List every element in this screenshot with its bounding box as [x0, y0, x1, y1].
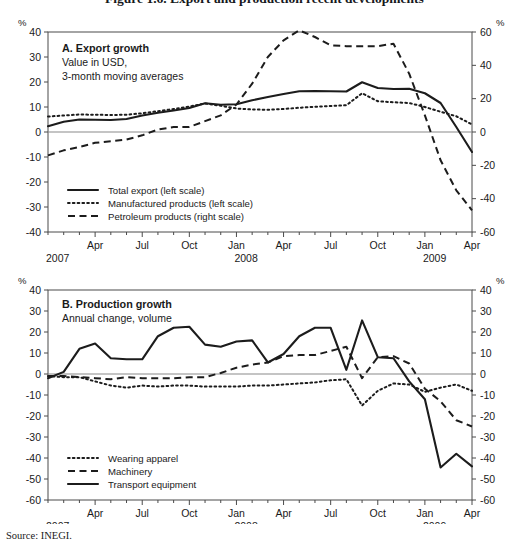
x-tick-label: Jul [324, 507, 337, 519]
y-tick-label-right: -40 [480, 192, 495, 204]
y-tick-label-left: -60 [26, 494, 41, 506]
x-tick-label: Jan [416, 239, 433, 251]
y-tick-label-left: -40 [26, 452, 41, 464]
export-growth-chart: 403020100-10-20-30-406040200-20-40-60%%A… [0, 8, 529, 278]
x-tick-label: Jul [136, 507, 149, 519]
x-year-label: 2007 [46, 520, 70, 524]
panel-title: A. Export growth [62, 42, 149, 54]
y-tick-label-left: -10 [26, 151, 41, 163]
panel-subtitle: Value in USD, [62, 56, 127, 68]
y-tick-label-left: 40 [29, 284, 41, 296]
figure-title: Figure 1.6. Export and production recent… [0, 0, 529, 7]
unit-symbol-left: % [18, 275, 27, 286]
panel-production-growth: 403020100-10-20-30-40-50-60403020100-10-… [0, 262, 529, 524]
y-tick-label-right: 0 [480, 126, 486, 138]
y-tick-label-left: -20 [26, 410, 41, 422]
legend-label: Transport equipment [108, 479, 197, 490]
x-tick-label: Jan [228, 507, 245, 519]
unit-symbol-right: % [496, 275, 505, 286]
x-tick-label: Oct [181, 239, 197, 251]
y-tick-label-left: 10 [29, 101, 41, 113]
x-tick-label: Oct [181, 507, 197, 519]
y-tick-label-right: 30 [480, 305, 492, 317]
x-tick-label: Apr [87, 239, 104, 251]
x-year-label: 2009 [423, 520, 447, 524]
y-tick-label-left: 30 [29, 305, 41, 317]
x-tick-label: Apr [464, 239, 481, 251]
y-tick-label-right: 40 [480, 59, 492, 71]
y-tick-label-right: 10 [480, 347, 492, 359]
y-tick-label-right: -20 [480, 159, 495, 171]
y-tick-label-right: 40 [480, 284, 492, 296]
y-tick-label-right: -20 [480, 410, 495, 422]
panel-title: B. Production growth [62, 298, 172, 310]
x-tick-label: Oct [370, 239, 386, 251]
panel-subtitle: 3-month moving averages [62, 70, 183, 82]
x-tick-label: Jul [324, 239, 337, 251]
series-line [48, 82, 472, 152]
y-tick-label-left: -20 [26, 176, 41, 188]
y-tick-label-right: -60 [480, 226, 495, 238]
x-tick-label: Jan [416, 507, 433, 519]
panel-export-growth: 403020100-10-20-30-406040200-20-40-60%%A… [0, 8, 529, 278]
y-tick-label-right: -40 [480, 452, 495, 464]
y-tick-label-right: 20 [480, 92, 492, 104]
x-tick-label: Jul [136, 239, 149, 251]
x-tick-label: Apr [87, 507, 104, 519]
legend-label: Machinery [108, 466, 152, 477]
legend-label: Manufactured products (left scale) [108, 198, 253, 209]
y-tick-label-left: 0 [35, 368, 41, 380]
y-tick-label-right: -10 [480, 389, 495, 401]
y-tick-label-left: -40 [26, 226, 41, 238]
legend-label: Petroleum products (right scale) [108, 211, 244, 222]
y-tick-label-right: -60 [480, 494, 495, 506]
y-tick-label-right: 60 [480, 26, 492, 38]
y-tick-label-left: -30 [26, 431, 41, 443]
x-tick-label: Apr [464, 507, 481, 519]
y-tick-label-left: 0 [35, 126, 41, 138]
y-tick-label-right: -30 [480, 431, 495, 443]
y-tick-label-right: 0 [480, 368, 486, 380]
y-tick-label-left: -30 [26, 201, 41, 213]
source-note: Source: INEGI. [6, 530, 72, 541]
y-tick-label-left: 20 [29, 326, 41, 338]
legend-label: Wearing apparel [108, 453, 178, 464]
x-tick-label: Apr [275, 239, 292, 251]
y-tick-label-left: -10 [26, 389, 41, 401]
unit-symbol-left: % [18, 17, 27, 28]
y-tick-label-left: 10 [29, 347, 41, 359]
x-tick-label: Jan [228, 239, 245, 251]
x-tick-label: Oct [370, 507, 386, 519]
panel-subtitle: Annual change, volume [62, 312, 172, 324]
y-tick-label-right: -50 [480, 473, 495, 485]
production-growth-chart: 403020100-10-20-30-40-50-60403020100-10-… [0, 262, 529, 524]
legend-label: Total export (left scale) [108, 185, 205, 196]
unit-symbol-right: % [496, 17, 505, 28]
x-tick-label: Apr [275, 507, 292, 519]
y-tick-label-left: 20 [29, 76, 41, 88]
series-line [48, 320, 472, 467]
y-tick-label-left: 40 [29, 26, 41, 38]
y-tick-label-right: 20 [480, 326, 492, 338]
y-tick-label-left: -50 [26, 473, 41, 485]
x-year-label: 2008 [234, 520, 258, 524]
y-tick-label-left: 30 [29, 51, 41, 63]
